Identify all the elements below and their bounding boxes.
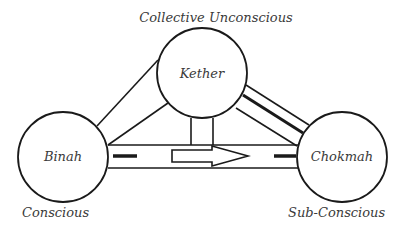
node-label-kether: Kether	[179, 66, 225, 81]
edge-kether-vertical	[191, 118, 213, 145]
caption-chokmah: Sub-Conscious	[288, 205, 385, 220]
caption-binah: Conscious	[22, 205, 89, 220]
node-label-binah: Binah	[43, 149, 82, 164]
edge-kether-chokmah	[236, 85, 309, 146]
node-label-chokmah: Chokmah	[311, 149, 373, 164]
arrow-right-icon	[172, 146, 248, 166]
tree-diagram: Kether Binah Chokmah Collective Unconsci…	[0, 0, 405, 233]
caption-kether: Collective Unconscious	[139, 10, 293, 25]
